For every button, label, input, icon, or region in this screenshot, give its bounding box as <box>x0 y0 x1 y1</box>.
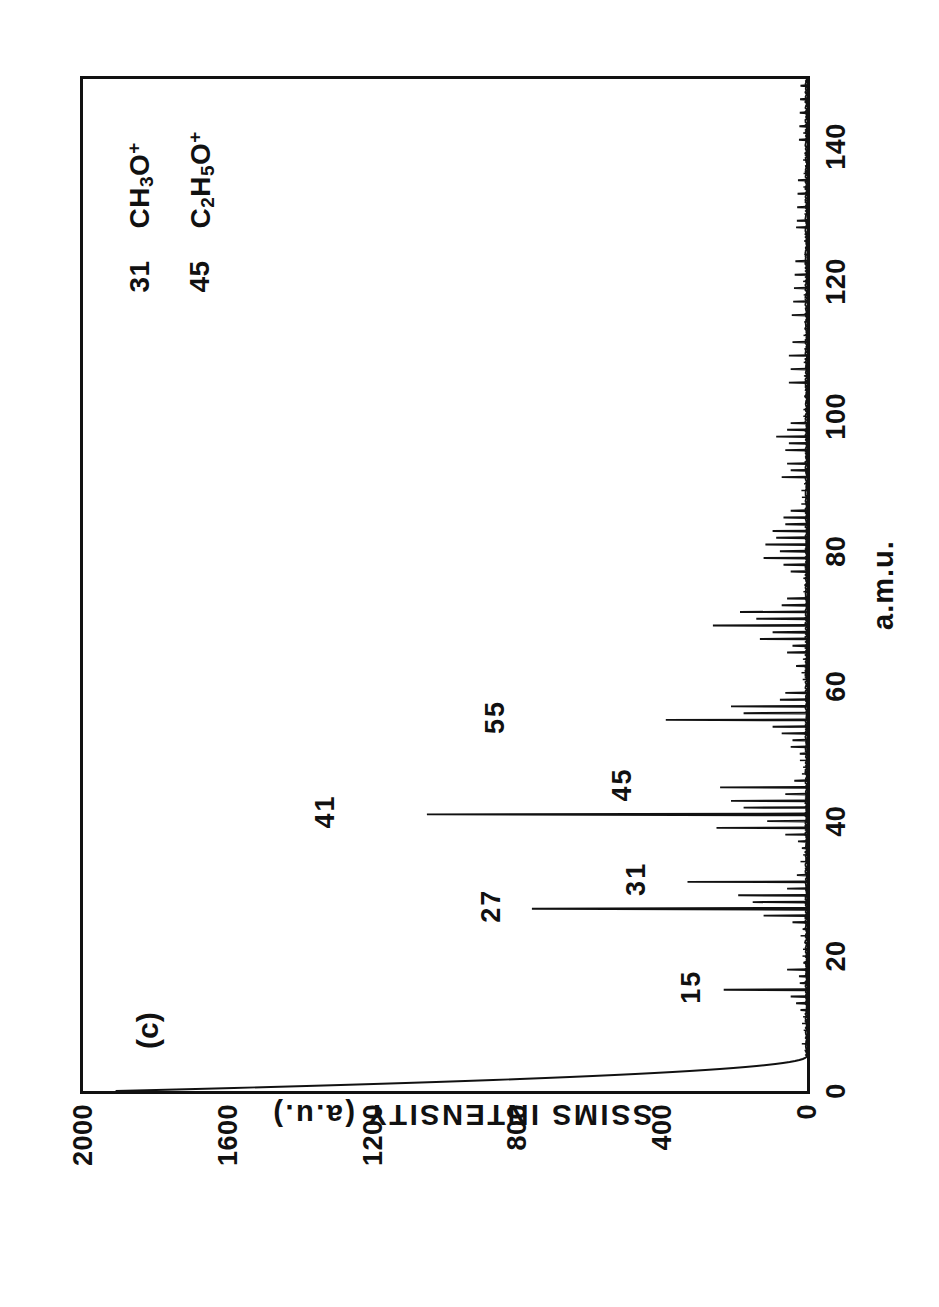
spectrum-peak <box>738 894 807 895</box>
spectrum-peak <box>793 301 807 302</box>
spectrum-peak <box>776 436 807 437</box>
spectrum-peak <box>795 260 807 261</box>
x-tick-label: 80 <box>821 535 852 566</box>
spectrum-peak <box>797 193 806 194</box>
spectrum-peak <box>799 982 806 983</box>
x-tick-label: 60 <box>821 670 852 701</box>
spectrum-peak <box>800 98 807 99</box>
spectrum-peak <box>781 733 806 734</box>
spectrum-peak <box>798 840 807 841</box>
spectrum-peak <box>787 888 807 889</box>
spectrum-peak <box>796 227 807 228</box>
spectrum-peak <box>665 719 806 720</box>
spectrum-peak <box>723 989 806 990</box>
spectrum-peak <box>798 179 807 180</box>
spectrum-peak <box>790 996 806 997</box>
spectrum-peak <box>796 665 807 666</box>
spectrum-peak <box>800 85 807 86</box>
y-axis-title: SSIMS INTENSITY (a.u.) <box>96 1097 826 1130</box>
spectrum-peak <box>799 112 806 113</box>
spectrum-peak <box>740 611 807 612</box>
panel-label: (c) <box>131 1012 165 1049</box>
peak-label: 55 <box>479 699 510 733</box>
spectrum-peak <box>790 422 806 423</box>
x-axis-title: a.m.u. <box>867 76 900 1094</box>
spectrum-peak <box>712 625 806 626</box>
x-tick-label: 0 <box>821 1083 852 1099</box>
spectrum-peak <box>783 564 807 565</box>
spectrum-peak <box>720 787 807 788</box>
spectrum-peak <box>790 510 806 511</box>
spectrum-peak <box>731 800 807 801</box>
spectrum-peak <box>785 692 807 693</box>
x-tick-label: 20 <box>821 940 852 971</box>
y-tick-label: 800 <box>501 1104 532 1151</box>
spectrum-peak <box>794 274 806 275</box>
spectrum-peak <box>787 598 807 599</box>
spectrum-peak <box>790 469 806 470</box>
spectrum-peak <box>801 847 806 848</box>
y-tick-label: 400 <box>646 1104 677 1151</box>
spectrum-peak <box>796 874 806 875</box>
spectrum-peak <box>790 746 806 747</box>
spectrum-peak <box>783 517 807 518</box>
spectrum-peak <box>785 834 807 835</box>
spectrum-peak <box>790 571 806 572</box>
spectrum-peak <box>799 125 807 126</box>
spectrum-peak <box>787 463 807 464</box>
spectrum-peak <box>802 928 806 929</box>
spectrum-peak <box>716 827 807 828</box>
legend-row: 31 CH3O+ <box>123 131 158 293</box>
spectrum-peak <box>788 442 806 443</box>
spectrum-peak <box>531 907 806 909</box>
spectrum-peak <box>796 1002 807 1003</box>
y-tick-label: 0 <box>791 1104 822 1120</box>
peak-label: 15 <box>675 969 706 1003</box>
spectrum-peak <box>763 557 806 558</box>
peak-label: 41 <box>309 794 340 828</box>
spectrum-peak <box>788 355 806 356</box>
y-tick-label: 1600 <box>212 1104 243 1166</box>
spectrum-peak <box>797 206 807 207</box>
spectrum-peak <box>785 449 807 450</box>
spectrum-peak <box>776 537 807 538</box>
spectrum-peak <box>799 139 807 140</box>
spectrum-peak <box>787 429 807 430</box>
spectrum-peak <box>790 368 806 369</box>
spectrum-peak <box>743 807 806 808</box>
spectrum-peak <box>794 287 807 288</box>
spectrum-peak <box>759 638 806 639</box>
peak-label: 27 <box>475 888 506 922</box>
spectrum-peak <box>794 780 807 781</box>
spectrum-peak <box>785 523 807 524</box>
spectrum-peak <box>772 631 806 632</box>
spectrum-peak <box>788 382 806 383</box>
spectrum-peak <box>787 652 807 653</box>
x-tick-label: 120 <box>821 258 852 305</box>
plot-frame: (c) 31 CH3O+ 45 C2H5O+ 152731414555 <box>80 76 810 1094</box>
spectrum-peak <box>792 921 807 922</box>
spectrum-peak <box>752 901 806 902</box>
legend-row: 45 C2H5O+ <box>183 131 218 293</box>
peak-label: 45 <box>606 767 637 801</box>
spectrum-peak <box>756 618 807 619</box>
rotated-chart-stage: (c) 31 CH3O+ 45 C2H5O+ 152731414555 a.m.… <box>55 64 885 1244</box>
legend-mass: 31 <box>123 254 155 292</box>
spectrum-peak <box>426 813 806 815</box>
spectrum-peak <box>765 544 807 545</box>
spectrum-peak <box>792 645 807 646</box>
spectrum-peak <box>803 962 807 963</box>
spectrum-peak <box>787 969 807 970</box>
spectrum-peak <box>772 726 806 727</box>
spectrum-peak <box>743 712 806 713</box>
spectrum-peak <box>779 699 806 700</box>
spectrum-peak <box>799 753 806 754</box>
spectrum-peak <box>763 915 806 916</box>
spectrum-peak <box>792 739 807 740</box>
spectrum-peak <box>781 604 806 605</box>
spectrum-peak <box>792 341 807 342</box>
figure-panel-c: (c) 31 CH3O+ 45 C2H5O+ 152731414555 a.m.… <box>0 0 939 1307</box>
spectrum-peak <box>779 550 806 551</box>
y-tick-label: 1200 <box>357 1104 388 1166</box>
y-tick-label: 2000 <box>67 1104 98 1166</box>
